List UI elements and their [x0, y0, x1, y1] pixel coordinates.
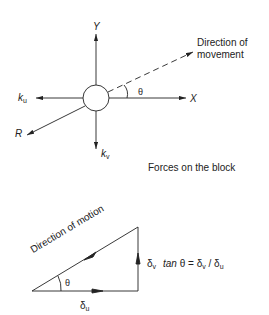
triangle-theta-label: θ [65, 278, 70, 289]
delta-u-subscript: u [86, 305, 90, 312]
forces-diagram [27, 34, 193, 149]
direction-label-line1: Direction of [197, 37, 248, 48]
y-axis-label: Y [93, 21, 100, 32]
kv-subscript: v [106, 153, 110, 160]
triangle-theta-arc [58, 276, 61, 291]
vertical-direction-arrow-icon [136, 253, 140, 264]
theta-arc [124, 85, 128, 98]
base-direction-arrow-icon [92, 289, 103, 293]
direction-of-movement-arrow [108, 52, 193, 92]
delta-v-subscript: v [153, 263, 157, 270]
theta-label: θ [138, 87, 143, 98]
delta-v-label: δv [147, 258, 156, 272]
r-arrow [27, 106, 85, 135]
tan-formula: tan θ = δv / δu [163, 258, 224, 272]
formula-u-sub: u [220, 263, 224, 270]
formula-div: / δ [206, 258, 220, 269]
block-circle [83, 85, 109, 111]
formula-tan: tan [163, 258, 177, 269]
kv-label: kv [101, 148, 110, 162]
direction-label-line2: movement [197, 49, 244, 60]
hyp-direction-arrow-icon [84, 252, 96, 260]
ku-subscript: u [23, 97, 27, 104]
delta-u-label: δu [80, 300, 89, 314]
r-label: R [15, 128, 22, 139]
formula-theta: θ = δ [180, 258, 203, 269]
x-axis-label: X [190, 93, 197, 104]
caption-forces-on-block: Forces on the block [148, 162, 235, 173]
ku-label: ku [18, 92, 27, 106]
